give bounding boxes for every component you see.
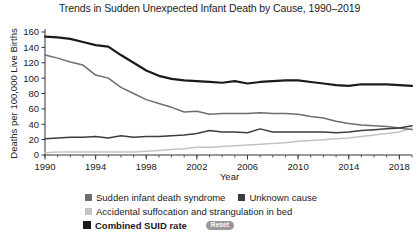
legend-row-3: Combined SUID rate Reset [0, 218, 419, 232]
legend-label-unknown-cause: Unknown cause [249, 192, 317, 203]
legend-swatch-icon-combined-suid [83, 221, 91, 229]
legend-row-1: Sudden infant death syndrome Unknown cau… [0, 190, 419, 204]
legend-swatch-icon-accidental-suffocation [85, 208, 92, 215]
legend-item-sids[interactable]: Sudden infant death syndrome [85, 192, 225, 203]
svg-text:40: 40 [28, 119, 39, 130]
svg-text:80: 80 [28, 88, 39, 99]
svg-text:160: 160 [23, 26, 39, 37]
legend-item-combined-suid[interactable]: Combined SUID rate [83, 220, 187, 231]
legend-item-accidental-suffocation[interactable]: Accidental suffocation and strangulation… [85, 206, 292, 217]
legend-swatch-icon-unknown-cause [238, 194, 245, 201]
legend-label-sids: Sudden infant death syndrome [96, 192, 225, 203]
svg-text:60: 60 [28, 103, 39, 114]
legend-row-2: Accidental suffocation and strangulation… [0, 204, 419, 218]
legend-label-combined-suid: Combined SUID rate [95, 220, 187, 231]
svg-text:140: 140 [23, 42, 39, 53]
legend-item-unknown-cause[interactable]: Unknown cause [238, 192, 317, 203]
x-axis-label: Year [40, 171, 419, 182]
svg-text:100: 100 [23, 73, 39, 84]
svg-text:20: 20 [28, 134, 39, 145]
legend-label-accidental-suffocation: Accidental suffocation and strangulation… [96, 206, 292, 217]
reset-button[interactable]: Reset [206, 221, 234, 230]
svg-text:0: 0 [34, 149, 39, 160]
legend-swatch-icon-sids [85, 194, 92, 201]
chart-figure: Trends in Sudden Unexpected Infant Death… [0, 0, 419, 244]
chart-legend: Sudden infant death syndrome Unknown cau… [0, 190, 419, 232]
svg-text:120: 120 [23, 57, 39, 68]
